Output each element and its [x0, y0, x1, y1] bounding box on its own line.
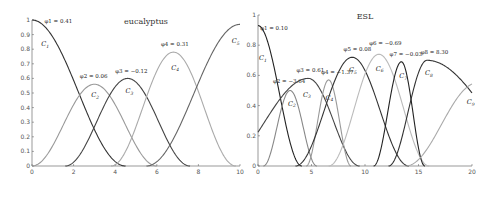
- series-label: C5: [349, 66, 357, 75]
- phi-annotation: φ5 = 0.08: [344, 46, 372, 53]
- phi-annotation: φ7 = −0.03: [390, 51, 423, 58]
- y-tick-label: 1: [252, 11, 256, 18]
- x-tick-label: 20: [468, 168, 476, 175]
- series-label: C5: [232, 37, 240, 46]
- phi-annotation: φ3 = 0.61: [297, 67, 325, 74]
- y-tick-label: 0.4: [20, 104, 30, 111]
- y-tick-label: 0.5: [20, 89, 30, 96]
- series-label: C2: [91, 91, 99, 100]
- y-tick-label: 0.8: [246, 41, 256, 48]
- series-label: C6: [376, 65, 384, 74]
- x-tick-label: 2: [72, 168, 76, 175]
- series-label: C3: [126, 87, 134, 96]
- y-tick-label: 0.7: [20, 60, 30, 67]
- phi-annotation: φ6 = −0.69: [369, 40, 402, 47]
- phi-annotation: φ2 = 0.06: [80, 73, 108, 80]
- phi-annotation: φ1 = 0.10: [260, 25, 288, 32]
- x-tick-label: 10: [236, 168, 244, 175]
- y-tick-label: 0.6: [246, 71, 256, 78]
- phi-annotation: φ8 = 8.30: [421, 49, 449, 56]
- phi-annotation: φ3 = −0.12: [115, 68, 147, 75]
- x-tick-label: 0: [30, 168, 34, 175]
- y-tick-label: 0: [26, 162, 30, 169]
- y-tick-label: 0.4: [246, 102, 256, 109]
- x-tick-label: 8: [196, 168, 200, 175]
- curve-c9: [406, 84, 472, 166]
- y-tick-label: 0.1: [20, 147, 30, 154]
- series-label: C3: [303, 91, 311, 100]
- y-tick-label: 0.3: [20, 118, 30, 125]
- eucalyptus-chart: 024681000.10.20.30.40.50.60.70.80.91euca…: [20, 16, 244, 175]
- x-tick-label: 0: [256, 168, 260, 175]
- y-tick-label: 0.6: [20, 74, 30, 81]
- series-label: C2: [288, 100, 296, 109]
- y-tick-label: 0.2: [20, 133, 30, 140]
- y-tick-label: 0.2: [246, 132, 256, 139]
- series-label: C8: [425, 69, 433, 78]
- y-tick-label: 1: [26, 16, 30, 23]
- series-label: C9: [467, 98, 475, 107]
- phi-annotation: φ4 = 0.31: [161, 41, 189, 48]
- esl-chart: 0510152000.20.40.60.81ESLC1φ1 = 0.10C2φ2…: [246, 11, 476, 175]
- phi-annotation: φ1 = 0.41: [44, 18, 72, 25]
- phi-annotation: φ2 = −3.64: [273, 78, 306, 85]
- y-tick-label: 0.9: [20, 31, 30, 38]
- chart-title: eucalyptus: [124, 17, 168, 26]
- x-tick-label: 6: [155, 168, 159, 175]
- x-tick-label: 15: [415, 168, 423, 175]
- series-label: C1: [41, 40, 49, 49]
- curve-c1: [258, 26, 302, 166]
- figure: 024681000.10.20.30.40.50.60.70.80.91euca…: [0, 0, 497, 199]
- y-tick-label: 0.8: [20, 45, 30, 52]
- x-tick-label: 4: [113, 168, 117, 175]
- y-tick-label: 0: [252, 162, 256, 169]
- series-label: C4: [171, 64, 179, 73]
- chart-title: ESL: [357, 12, 374, 21]
- series-label: C1: [259, 54, 267, 63]
- x-tick-label: 5: [310, 168, 314, 175]
- x-tick-label: 10: [361, 168, 369, 175]
